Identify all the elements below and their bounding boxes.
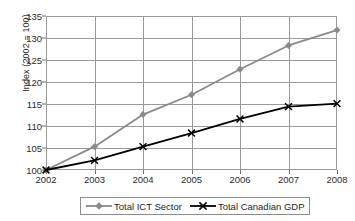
x-axis-tick-mark bbox=[337, 170, 338, 174]
series-total-ict-sector bbox=[43, 27, 340, 173]
x-axis-tick-label: 2008 bbox=[326, 174, 347, 185]
chart-figure: Index (2002 = 100) 100105110115120125130… bbox=[0, 0, 355, 221]
legend-label: Total Canadian GDP bbox=[218, 201, 305, 212]
x-axis-tick-label: 2004 bbox=[132, 174, 153, 185]
diamond-marker-icon bbox=[85, 200, 113, 212]
y-axis-tick-label: 130 bbox=[26, 33, 42, 44]
x-marker-icon bbox=[189, 200, 217, 212]
series-total-canadian-gdp bbox=[43, 100, 341, 173]
x-axis-tick-label: 2005 bbox=[181, 174, 202, 185]
data-point-marker bbox=[188, 92, 194, 98]
data-point-marker bbox=[334, 27, 340, 33]
x-axis-tick-label: 2003 bbox=[84, 174, 105, 185]
x-axis-tick-label: 2007 bbox=[278, 174, 299, 185]
series-layer bbox=[46, 16, 337, 170]
legend-label: Total ICT Sector bbox=[114, 201, 182, 212]
y-axis-tick-label: 120 bbox=[26, 77, 42, 88]
y-axis-tick-label: 105 bbox=[26, 143, 42, 154]
x-axis-tick-mark bbox=[143, 170, 144, 174]
x-axis-tick-mark bbox=[95, 170, 96, 174]
y-axis-tick-label: 115 bbox=[27, 99, 42, 110]
chart-legend: Total ICT SectorTotal Canadian GDP bbox=[80, 197, 310, 215]
legend-item[interactable]: Total ICT Sector bbox=[85, 200, 182, 212]
x-axis-tick-label: 2006 bbox=[229, 174, 250, 185]
plot-area: 100105110115120125130135 200220032004200… bbox=[46, 16, 337, 170]
series-line bbox=[46, 104, 337, 170]
data-point-marker bbox=[237, 66, 243, 72]
legend-item[interactable]: Total Canadian GDP bbox=[189, 200, 305, 212]
x-axis-tick-label: 2002 bbox=[35, 174, 56, 185]
y-axis-tick-label: 135 bbox=[26, 11, 42, 22]
x-axis-tick-mark bbox=[240, 170, 241, 174]
series-line bbox=[46, 30, 337, 170]
data-point-marker bbox=[285, 42, 291, 48]
y-axis-tick-label: 125 bbox=[26, 55, 42, 66]
x-axis-tick-mark bbox=[289, 170, 290, 174]
x-axis-tick-mark bbox=[192, 170, 193, 174]
y-axis-tick-label: 110 bbox=[27, 121, 42, 132]
